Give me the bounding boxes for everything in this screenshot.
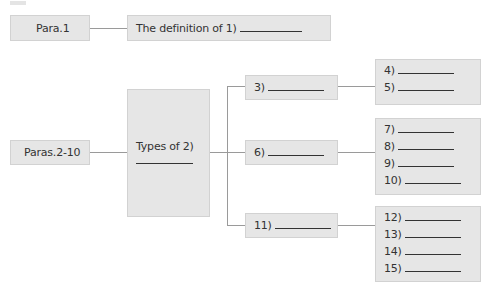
branch-11-label: 11): [254, 219, 272, 232]
branch-6-box: 6): [245, 140, 338, 165]
item-label: 14): [384, 245, 402, 258]
items-12-15-box: 12) 13) 14) 15): [375, 206, 481, 282]
connector-paras: [90, 152, 127, 153]
item-row: 7): [384, 123, 454, 136]
answer-blank-14[interactable]: [405, 245, 461, 255]
types-text: Types of 2): [136, 140, 194, 153]
vertical-trunk: [227, 86, 228, 226]
item-label: 10): [384, 174, 402, 187]
item-row: 5): [384, 81, 454, 94]
item-label: 15): [384, 262, 402, 275]
answer-blank-13[interactable]: [405, 228, 461, 238]
answer-blank-3[interactable]: [268, 81, 324, 91]
item-row: 9): [384, 157, 454, 170]
item-row: 10): [384, 174, 461, 187]
connector-branch-3-items: [338, 86, 375, 87]
items-4-5-box: 4) 5): [375, 59, 481, 105]
answer-blank-9[interactable]: [398, 157, 454, 167]
connector-para1: [90, 28, 127, 29]
decorative-mark: [10, 1, 26, 5]
branch-3-text: 3): [254, 81, 324, 94]
connector-branch-11-items: [338, 225, 375, 226]
paras-2-10-box: Paras.2-10: [10, 140, 90, 165]
branch-3-label: 3): [254, 81, 265, 94]
answer-blank-11[interactable]: [275, 219, 331, 229]
connector-branch-3: [227, 86, 245, 87]
item-label: 4): [384, 64, 395, 77]
item-label: 8): [384, 140, 395, 153]
types-box: Types of 2): [127, 89, 210, 217]
para-1-box: Para.1: [10, 15, 90, 41]
connector-branch-6-items: [338, 152, 375, 153]
answer-blank-15[interactable]: [405, 262, 461, 272]
answer-blank-12[interactable]: [405, 211, 461, 221]
answer-blank-5[interactable]: [398, 81, 454, 91]
answer-blank-10[interactable]: [405, 174, 461, 184]
item-label: 13): [384, 228, 402, 241]
answer-blank-4[interactable]: [398, 64, 454, 74]
item-row: 15): [384, 262, 461, 275]
connector-branch-6: [227, 152, 245, 153]
answer-blank-7[interactable]: [398, 123, 454, 133]
definition-box: The definition of 1): [127, 15, 331, 41]
definition-text: The definition of 1): [136, 22, 302, 35]
connector-types: [210, 152, 227, 153]
branch-11-box: 11): [245, 213, 338, 238]
answer-blank-2[interactable]: [136, 154, 193, 164]
branch-11-text: 11): [254, 219, 331, 232]
item-row: 14): [384, 245, 461, 258]
item-label: 5): [384, 81, 395, 94]
answer-blank-8[interactable]: [398, 140, 454, 150]
answer-blank-6[interactable]: [268, 146, 324, 156]
item-row: 4): [384, 64, 454, 77]
branch-3-box: 3): [245, 75, 338, 100]
branch-6-text: 6): [254, 146, 324, 159]
para-1-label: Para.1: [36, 22, 69, 35]
answer-blank-1[interactable]: [240, 22, 302, 32]
paras-2-10-label: Paras.2-10: [24, 146, 80, 159]
item-label: 12): [384, 211, 402, 224]
item-label: 7): [384, 123, 395, 136]
connector-branch-11: [227, 225, 245, 226]
item-row: 13): [384, 228, 461, 241]
item-label: 9): [384, 157, 395, 170]
item-row: 8): [384, 140, 454, 153]
items-7-10-box: 7) 8) 9) 10): [375, 118, 481, 195]
branch-6-label: 6): [254, 146, 265, 159]
item-row: 12): [384, 211, 461, 224]
definition-prefix: The definition of 1): [136, 22, 237, 35]
